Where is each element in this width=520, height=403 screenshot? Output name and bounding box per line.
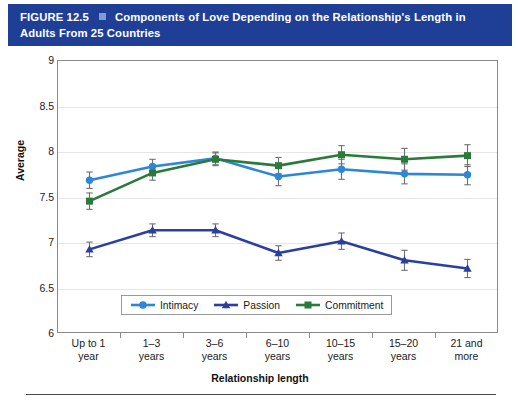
y-axis-tick-label: 8.5 — [14, 100, 54, 112]
bottom-divider — [26, 394, 496, 395]
plot-series-svg — [58, 61, 499, 334]
data-point — [338, 166, 345, 173]
legend-entry-commitment[interactable]: Commitment — [295, 299, 383, 311]
chart-area: Average 66.577.588.59 Up to 1year1–3year… — [0, 46, 520, 403]
series-passion — [85, 226, 471, 272]
blue-square-icon — [99, 13, 106, 20]
y-axis-tick-label: 8 — [14, 145, 54, 157]
data-point — [275, 173, 282, 180]
data-point — [86, 177, 93, 184]
data-point — [338, 151, 345, 158]
x-axis-tick-label-line: 21 and — [430, 337, 504, 350]
data-point — [464, 152, 471, 159]
data-point — [275, 162, 282, 169]
y-axis-tick-label: 9 — [14, 54, 54, 66]
legend-label: Passion — [243, 300, 280, 311]
data-point — [149, 163, 156, 170]
legend-label: Commitment — [325, 300, 383, 311]
data-point — [86, 198, 93, 205]
plot-frame — [57, 60, 498, 333]
y-axis-tick-label: 6.5 — [14, 282, 54, 294]
legend-entry-passion[interactable]: Passion — [213, 299, 280, 311]
chart-legend: IntimacyPassionCommitment — [121, 295, 392, 315]
circle-marker-icon — [130, 299, 156, 311]
x-axis-tick-label-line: more — [430, 350, 504, 363]
data-point — [401, 170, 408, 177]
triangle-marker-icon — [213, 299, 239, 311]
y-axis-tick-label: 7 — [14, 236, 54, 248]
data-point — [212, 156, 219, 163]
legend-label: Intimacy — [160, 300, 198, 311]
data-point — [464, 171, 471, 178]
y-axis-tick-label: 7.5 — [14, 191, 54, 203]
data-point — [401, 156, 408, 163]
y-axis-tick-label: 6 — [14, 327, 54, 339]
data-point — [149, 169, 156, 176]
x-axis-tick-label: 21 andmore — [430, 337, 504, 362]
x-axis-title: Relationship length — [0, 372, 520, 384]
square-marker-icon — [295, 299, 321, 311]
figure-number: FIGURE 12.5 — [20, 11, 89, 23]
legend-entry-intimacy[interactable]: Intimacy — [130, 299, 198, 311]
figure-banner: FIGURE 12.5Components of Love Depending … — [8, 4, 512, 46]
